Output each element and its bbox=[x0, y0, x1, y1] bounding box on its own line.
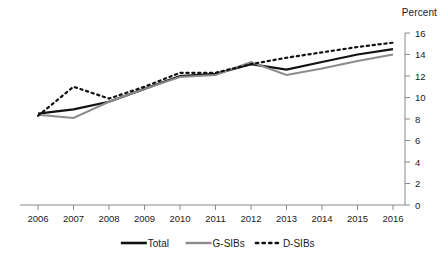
x-axis-tick-label: 2016 bbox=[382, 213, 403, 224]
y-axis-tick-label: 2 bbox=[415, 178, 420, 189]
y-axis: 0246810121416 bbox=[405, 28, 426, 211]
chart-container: Percent 0246810121416 200620072008200920… bbox=[0, 0, 443, 263]
chart-legend: TotalG-SIBsD-SIBs bbox=[121, 238, 315, 249]
data-series-group bbox=[38, 43, 393, 118]
x-axis-tick-label: 2011 bbox=[205, 213, 225, 224]
y-axis-tick-label: 0 bbox=[415, 200, 420, 211]
y-axis-tick-label: 6 bbox=[415, 135, 420, 146]
y-axis-tick-label: 14 bbox=[415, 49, 426, 60]
x-axis-tick-label: 2007 bbox=[63, 213, 84, 224]
y-axis-tick-label: 4 bbox=[415, 157, 420, 168]
y-axis-tick-label: 10 bbox=[415, 92, 426, 103]
legend-label-total: Total bbox=[148, 238, 169, 249]
legend-label-g-sibs: G-SIBs bbox=[213, 238, 245, 249]
y-axis-tick-label: 16 bbox=[415, 28, 426, 39]
x-axis-tick-label: 2006 bbox=[27, 213, 48, 224]
x-axis-tick-label: 2010 bbox=[169, 213, 190, 224]
x-axis-tick-label: 2014 bbox=[311, 213, 332, 224]
x-axis-tick-label: 2012 bbox=[240, 213, 261, 224]
line-chart-plot: 0246810121416 20062007200820092010201120… bbox=[0, 0, 443, 263]
y-axis-tick-label: 8 bbox=[415, 114, 420, 125]
y-axis-tick-label: 12 bbox=[415, 71, 426, 82]
x-axis-tick-label: 2008 bbox=[98, 213, 119, 224]
x-axis-tick-label: 2015 bbox=[347, 213, 368, 224]
series-line-total bbox=[38, 49, 393, 114]
x-axis: 2006200720082009201020112012201320142015… bbox=[20, 205, 405, 224]
x-axis-tick-label: 2013 bbox=[276, 213, 297, 224]
legend-label-d-sibs: D-SIBs bbox=[283, 238, 315, 249]
x-axis-tick-label: 2009 bbox=[134, 213, 155, 224]
series-line-g-sibs bbox=[38, 55, 393, 118]
